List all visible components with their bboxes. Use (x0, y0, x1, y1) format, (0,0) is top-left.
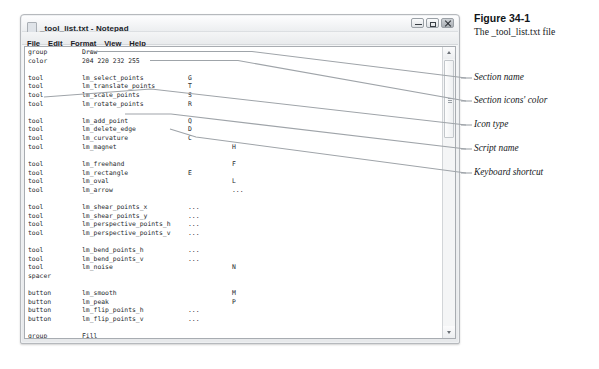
line-script-name: lm_perspective_points_h (82, 220, 188, 229)
line-script-name: lm_delete_edge (82, 125, 188, 134)
line-keyword: tool (28, 212, 82, 221)
line-keyword: tool (28, 220, 82, 229)
line-script-name: lm_scale_points (82, 91, 188, 100)
file-line: toollm_add_pointQ (28, 117, 440, 126)
line-shortcut: S (188, 91, 232, 100)
line-keyword: button (28, 289, 82, 298)
annotation-section-name: Section name (474, 72, 524, 82)
line-keyword: tool (28, 100, 82, 109)
file-line: toollm_scale_pointsS (28, 91, 440, 100)
line-shortcut-wide: H (232, 143, 236, 151)
annotation-section-icons-color: Section icons' color (474, 95, 547, 105)
file-line: toollm_perspective_points_v... (28, 229, 440, 238)
scrollbar-thumb[interactable] (444, 60, 454, 138)
line-script-name: lm_translate_points (82, 82, 188, 91)
minimize-button[interactable] (411, 18, 424, 28)
line-keyword: tool (28, 255, 82, 264)
line-shortcut: Q (188, 117, 232, 126)
line-shortcut: ... (188, 315, 232, 324)
file-line: groupFill (28, 332, 440, 338)
line-shortcut-wide: P (232, 298, 236, 306)
file-line: buttonlm_flip_points_h... (28, 306, 440, 315)
notepad-window: _tool_list.txt - Notepad FileEditFormatV… (20, 14, 460, 344)
line-shortcut: G (188, 74, 232, 83)
line-shortcut-wide: F (232, 160, 236, 168)
line-script-name: lm_shear_points_y (82, 212, 188, 221)
line-shortcut: R (188, 100, 232, 109)
line-keyword: tool (28, 229, 82, 238)
file-line: toollm_shear_points_y... (28, 212, 440, 221)
figure-caption-text: The _tool_list.txt file (474, 26, 555, 37)
menu-bar: FileEditFormatViewHelp (22, 32, 458, 45)
line-keyword: spacer (28, 272, 82, 281)
file-line: toollm_ovalL (28, 177, 440, 186)
line-script-name: lm_perspective_points_v (82, 229, 188, 238)
line-script-name: lm_smooth (82, 289, 188, 298)
line-script-name: lm_rotate_points (82, 100, 188, 109)
file-line (28, 237, 440, 246)
maximize-button[interactable] (426, 18, 439, 28)
line-keyword: tool (28, 263, 82, 272)
file-line: color204 220 232 255 (28, 57, 440, 66)
line-script-name: lm_noise (82, 263, 188, 272)
file-line: toollm_select_pointsG (28, 74, 440, 83)
file-line: toollm_rectangleE (28, 169, 440, 178)
line-shortcut: ... (188, 220, 232, 229)
line-script-name: lm_arrow (82, 186, 188, 195)
file-line: buttonlm_smoothM (28, 289, 440, 298)
figure-number: Figure 34-1 (474, 12, 555, 24)
line-script-name: lm_shear_points_x (82, 203, 188, 212)
line-keyword: tool (28, 134, 82, 143)
line-shortcut: ... (188, 203, 232, 212)
line-keyword: tool (28, 74, 82, 83)
file-line: toollm_perspective_points_h... (28, 220, 440, 229)
close-button[interactable] (441, 18, 454, 28)
scroll-up-arrow-icon[interactable] (443, 47, 455, 59)
line-keyword: color (28, 57, 82, 66)
file-line (28, 280, 440, 289)
file-line: toollm_shear_points_x... (28, 203, 440, 212)
line-keyword: tool (28, 203, 82, 212)
file-line: toollm_translate_pointsT (28, 82, 440, 91)
figure-caption: Figure 34-1 The _tool_list.txt file (474, 12, 555, 37)
file-line: toollm_rotate_pointsR (28, 100, 440, 109)
line-keyword: tool (28, 177, 82, 186)
file-contents: groupDrawcolor204 220 232 255toollm_sele… (28, 48, 440, 338)
line-script-name: 204 220 232 255 (82, 57, 188, 66)
file-line: spacer (28, 272, 440, 281)
line-shortcut: ... (188, 306, 232, 315)
line-keyword: tool (28, 246, 82, 255)
line-script-name: lm_freehand (82, 160, 188, 169)
file-line (28, 65, 440, 74)
file-line: toollm_arrow... (28, 186, 440, 195)
line-keyword: button (28, 315, 82, 324)
file-line (28, 151, 440, 160)
line-keyword: tool (28, 143, 82, 152)
file-line: toollm_curvatureC (28, 134, 440, 143)
line-script-name: Draw (82, 48, 188, 57)
line-script-name: lm_rectangle (82, 169, 188, 178)
line-script-name: lm_flip_points_v (82, 315, 188, 324)
line-keyword: group (28, 332, 82, 338)
line-keyword: tool (28, 82, 82, 91)
text-editor-area[interactable]: groupDrawcolor204 220 232 255toollm_sele… (24, 46, 456, 339)
title-bar[interactable]: _tool_list.txt - Notepad (22, 16, 458, 32)
line-shortcut: ... (188, 246, 232, 255)
file-line: groupDraw (28, 48, 440, 57)
file-line: toollm_bend_points_h... (28, 246, 440, 255)
line-keyword: tool (28, 91, 82, 100)
figure-page: _tool_list.txt - Notepad FileEditFormatV… (0, 0, 599, 369)
line-shortcut: C (188, 134, 232, 143)
scroll-down-arrow-icon[interactable] (443, 326, 455, 338)
annotation-icon-type: Icon type (474, 119, 508, 129)
line-shortcut: ... (188, 212, 232, 221)
line-script-name: lm_oval (82, 177, 188, 186)
line-shortcut-wide: ... (232, 186, 244, 194)
vertical-scrollbar[interactable] (442, 47, 455, 338)
line-script-name: lm_magnet (82, 143, 188, 152)
line-script-name: lm_flip_points_h (82, 306, 188, 315)
line-keyword: tool (28, 169, 82, 178)
line-shortcut: T (188, 82, 232, 91)
file-line: toollm_delete_edgeD (28, 125, 440, 134)
file-line: toollm_bend_points_v... (28, 255, 440, 264)
